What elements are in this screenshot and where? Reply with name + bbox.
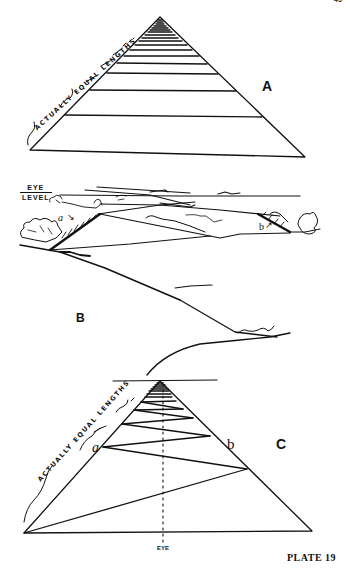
figure-c-point-b: b: [227, 436, 235, 453]
figure-c-brace-marks: [24, 398, 134, 522]
eye-level-label: EYE LEVEL: [20, 183, 52, 202]
figure-b-point-a: a: [58, 212, 63, 223]
figure-b-landscape: [20, 187, 320, 375]
plate-19-illustration: 43 ACTUALLY EQUAL LENGTHS A EYE LEVEL a …: [0, 0, 350, 574]
plate-caption: PLATE 19: [287, 552, 336, 563]
figure-b-arrow-b-icon: ↗: [265, 220, 273, 230]
figure-b-arrow-a-icon: ↘: [67, 212, 75, 222]
perspective-drawings: [0, 0, 350, 574]
eye-marker-label: EYE: [157, 545, 169, 551]
figure-c-triangle: [24, 380, 312, 545]
figure-c-point-a: a: [92, 440, 99, 456]
figure-a-label: A: [262, 78, 272, 94]
figure-c-label: C: [276, 436, 286, 452]
eye-level-line-2: LEVEL: [20, 193, 52, 202]
eye-level-line-1: EYE: [20, 183, 52, 193]
page-number: 43: [334, 0, 342, 3]
figure-b-point-b: b: [259, 221, 264, 232]
figure-b-label: B: [76, 311, 85, 325]
